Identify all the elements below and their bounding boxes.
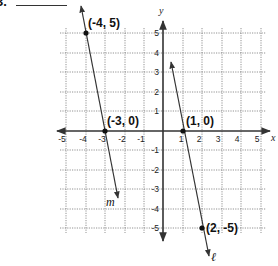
label-point-2-neg5: (2, -5) [206,221,238,235]
point-2-neg5 [199,225,204,230]
svg-text:1: 1 [154,106,159,116]
svg-text:-3: -3 [98,134,106,144]
label-point-neg3-0: (-3, 0) [107,114,139,128]
point-neg4-5 [83,30,88,35]
x-axis-label: x [270,132,276,143]
svg-text:-2: -2 [151,165,159,175]
point-1-0 [180,128,185,133]
svg-text:2: 2 [197,134,202,144]
point-neg3-0 [102,128,107,133]
svg-text:1: 1 [179,134,184,144]
svg-text:-2: -2 [118,134,126,144]
x-tick-labels: -5 -4 -3 -2 -1 1 2 3 4 5 [58,134,259,144]
y-axis-label: y [158,5,164,16]
label-line-m: m [106,195,115,209]
svg-text:5: 5 [154,28,159,38]
svg-text:3: 3 [216,134,221,144]
svg-text:4: 4 [235,134,240,144]
coordinate-plane: x y -5 -4 -3 -2 -1 1 2 3 4 5 5 4 3 2 1 -… [0,0,278,266]
svg-text:-5: -5 [58,134,66,144]
svg-text:3: 3 [154,67,159,77]
svg-text:-4: -4 [79,134,87,144]
svg-text:-1: -1 [151,145,159,155]
svg-text:-4: -4 [151,204,159,214]
svg-text:-5: -5 [151,223,159,233]
label-point-1-0: (1, 0) [186,114,214,128]
label-point-neg4-5: (-4, 5) [88,16,120,30]
svg-text:4: 4 [154,48,159,58]
svg-text:5: 5 [255,134,260,144]
svg-text:2: 2 [154,87,159,97]
svg-text:-3: -3 [151,184,159,194]
svg-text:-1: -1 [137,134,145,144]
label-line-l: ℓ [211,250,216,264]
